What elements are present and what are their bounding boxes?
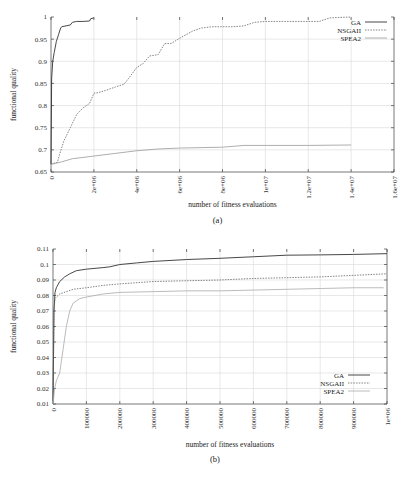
x-tick-label: 300000 — [150, 408, 158, 430]
x-tick-label: 4e+06 — [133, 176, 141, 194]
y-tick-label: 0.11 — [37, 245, 49, 253]
series-line-spea2 — [51, 145, 351, 164]
y-tick-label: 0.06 — [37, 323, 50, 331]
x-tick-label: 100000 — [83, 408, 91, 430]
legend-label: SPEA2 — [323, 388, 344, 396]
y-tick-label: 1 — [44, 13, 48, 21]
legend-label: NSGAII — [337, 27, 361, 35]
y-axis-title: functional quality — [9, 68, 18, 121]
panel-caption: (b) — [210, 454, 220, 464]
chart-panel-a: 02e+064e+066e+068e+061e+071.2e+071.4e+07… — [9, 13, 399, 225]
x-tick-label: 2e+06 — [90, 176, 98, 194]
y-tick-label: 0.08 — [37, 292, 50, 300]
y-tick-label: 0.95 — [35, 36, 48, 44]
y-tick-label: 0.03 — [37, 369, 50, 377]
y-tick-label: 0.65 — [35, 168, 48, 176]
x-tick-label: 500000 — [217, 408, 225, 430]
legend-label: GA — [334, 372, 344, 380]
x-axis-title: number of fitness evaluations — [188, 200, 277, 209]
x-tick-label: 1e+07 — [262, 176, 270, 194]
chart-panel-b: 0100000200000300000400000500000600000700… — [9, 245, 392, 464]
y-tick-label: 0.1 — [40, 261, 49, 269]
x-tick-label: 1.6e+07 — [391, 176, 399, 199]
x-tick-label: 0 — [48, 176, 56, 180]
figure: 02e+064e+066e+068e+061e+071.2e+071.4e+07… — [0, 0, 410, 477]
y-tick-label: 0.05 — [37, 338, 50, 346]
x-axis-title: number of fitness evaluations — [186, 440, 275, 449]
x-tick-label: 400000 — [183, 408, 191, 430]
y-tick-label: 0.85 — [35, 80, 48, 88]
x-tick-label: 1e+06 — [384, 408, 392, 426]
y-axis-title: functional quality — [9, 300, 18, 353]
y-tick-label: 0.9 — [38, 58, 47, 66]
series-line-ga — [51, 18, 94, 164]
x-tick-label: 6e+06 — [176, 176, 184, 194]
x-tick-label: 900000 — [350, 408, 358, 430]
y-tick-label: 0.01 — [37, 400, 50, 408]
y-tick-label: 0.04 — [37, 354, 50, 362]
x-tick-label: 800000 — [317, 408, 325, 430]
legend-label: GA — [351, 19, 361, 27]
x-tick-label: 200000 — [116, 408, 124, 430]
legend-label: SPEA2 — [340, 35, 361, 43]
y-tick-label: 0.7 — [38, 146, 47, 154]
y-tick-label: 0.02 — [37, 385, 50, 393]
y-tick-label: 0.75 — [35, 124, 48, 132]
y-tick-label: 0.09 — [37, 276, 50, 284]
legend-label: NSGAII — [320, 380, 344, 388]
x-tick-label: 700000 — [283, 408, 291, 430]
y-tick-label: 0.07 — [37, 307, 50, 315]
x-tick-label: 8e+06 — [219, 176, 227, 194]
x-tick-label: 0 — [50, 408, 58, 412]
x-tick-label: 1.2e+07 — [305, 176, 313, 199]
x-tick-label: 1.4e+07 — [348, 176, 356, 199]
panel-caption: (a) — [213, 215, 223, 225]
y-tick-label: 0.8 — [38, 102, 47, 110]
x-tick-label: 600000 — [250, 408, 258, 430]
